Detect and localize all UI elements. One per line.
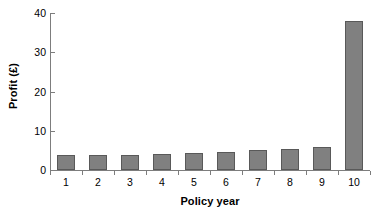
x-axis-title: Policy year [50, 195, 370, 207]
y-axis-title: Profit (£) [4, 0, 22, 172]
plot-area [50, 13, 370, 170]
bar [313, 147, 331, 170]
y-tick-mark [51, 131, 55, 132]
bar-chart: Profit (£) 010203040 12345678910 Policy … [0, 0, 381, 218]
x-tick-mark [274, 171, 275, 175]
x-tick-mark [82, 171, 83, 175]
x-tick-label: 10 [338, 176, 370, 188]
x-tick-label: 9 [306, 176, 338, 188]
bar [185, 153, 203, 170]
bar [345, 21, 363, 170]
x-axis-tick-labels: 12345678910 [50, 176, 370, 190]
x-tick-mark [50, 171, 51, 175]
x-tick-mark [114, 171, 115, 175]
x-tick-label: 5 [178, 176, 210, 188]
x-tick-label: 6 [210, 176, 242, 188]
x-tick-mark [178, 171, 179, 175]
x-tick-mark [210, 171, 211, 175]
bar [153, 154, 171, 170]
bar [249, 150, 267, 170]
bar [217, 152, 235, 170]
x-tick-label: 1 [50, 176, 82, 188]
x-tick-mark [306, 171, 307, 175]
y-tick-mark [51, 13, 55, 14]
bar [89, 155, 107, 170]
y-tick-mark [51, 52, 55, 53]
y-tick-label: 40 [24, 8, 46, 18]
x-tick-label: 8 [274, 176, 306, 188]
y-tick-label: 30 [24, 47, 46, 57]
x-tick-mark [146, 171, 147, 175]
x-tick-mark [338, 171, 339, 175]
x-tick-mark [242, 171, 243, 175]
x-tick-mark [370, 171, 371, 175]
y-axis-title-text: Profit (£) [7, 63, 19, 109]
y-tick-label: 20 [24, 87, 46, 97]
x-tick-label: 2 [82, 176, 114, 188]
y-axis-tick-labels: 010203040 [22, 0, 46, 180]
bar [121, 155, 139, 170]
y-tick-mark [51, 170, 55, 171]
x-tick-label: 3 [114, 176, 146, 188]
x-tick-label: 4 [146, 176, 178, 188]
bar [281, 149, 299, 170]
y-tick-label: 0 [24, 165, 46, 175]
bar [57, 155, 75, 170]
x-tick-label: 7 [242, 176, 274, 188]
y-tick-label: 10 [24, 126, 46, 136]
y-tick-mark [51, 92, 55, 93]
